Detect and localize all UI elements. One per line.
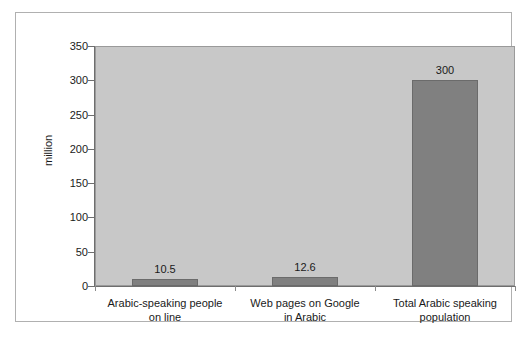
x-category-label-line: population bbox=[375, 310, 515, 324]
x-axis-line bbox=[94, 286, 516, 287]
x-tick-mark bbox=[235, 286, 236, 291]
y-tick-mark bbox=[88, 149, 94, 150]
x-tick-mark bbox=[515, 286, 516, 291]
bar[interactable] bbox=[272, 277, 338, 286]
y-tick-mark bbox=[88, 183, 94, 184]
bar-slot: 12.6 bbox=[235, 46, 375, 286]
x-tick-mark bbox=[375, 286, 376, 291]
x-tick-mark bbox=[95, 286, 96, 291]
bar-slot: 300 bbox=[375, 46, 515, 286]
x-category-label-line: Arabic-speaking people bbox=[95, 296, 235, 310]
y-tick-label: 250 bbox=[26, 109, 88, 120]
bar[interactable] bbox=[412, 80, 478, 286]
y-tick-mark bbox=[88, 46, 94, 47]
y-tick-mark bbox=[88, 115, 94, 116]
y-tick-label: 100 bbox=[26, 212, 88, 223]
bar-slot: 10.5 bbox=[95, 46, 235, 286]
x-category-label: Web pages on Googlein Arabic bbox=[235, 296, 375, 324]
y-tick-mark bbox=[88, 252, 94, 253]
x-category-label-line: in Arabic bbox=[235, 310, 375, 324]
chart-outer-frame: million 050100150200250300350 10.512.630… bbox=[15, 12, 512, 322]
bar-value-label: 10.5 bbox=[154, 264, 175, 275]
x-category-label: Total Arabic speakingpopulation bbox=[375, 296, 515, 324]
y-tick-mark bbox=[88, 80, 94, 81]
bars-layer: 10.512.6300 bbox=[95, 46, 515, 286]
x-category-label-line: on line bbox=[95, 310, 235, 324]
chart-figure: million 050100150200250300350 10.512.630… bbox=[0, 0, 527, 346]
y-tick-mark bbox=[88, 217, 94, 218]
x-category-label: Arabic-speaking peopleon line bbox=[95, 296, 235, 324]
x-category-label-line: Total Arabic speaking bbox=[375, 296, 515, 310]
y-tick-mark bbox=[88, 286, 94, 287]
y-tick-label: 0 bbox=[26, 281, 88, 292]
bar[interactable] bbox=[132, 279, 198, 286]
y-tick-label: 350 bbox=[26, 41, 88, 52]
bar-value-label: 12.6 bbox=[294, 262, 315, 273]
x-category-label-line: Web pages on Google bbox=[235, 296, 375, 310]
y-tick-label: 150 bbox=[26, 178, 88, 189]
bar-value-label: 300 bbox=[436, 65, 454, 76]
y-tick-label: 200 bbox=[26, 143, 88, 154]
y-tick-label: 50 bbox=[26, 246, 88, 257]
x-axis-category-labels: Arabic-speaking peopleon lineWeb pages o… bbox=[95, 296, 515, 330]
y-tick-label: 300 bbox=[26, 75, 88, 86]
